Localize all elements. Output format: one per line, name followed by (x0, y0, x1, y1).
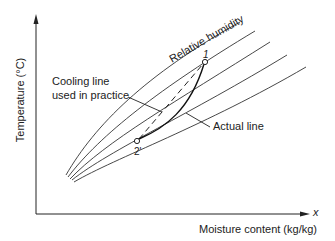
psychrometric-diagram: Relative humidity Temperature (°C) 1 2' … (0, 0, 335, 241)
cooling-line-leader (128, 97, 162, 112)
diagram-canvas: Relative humidity Temperature (°C) (0, 0, 335, 241)
cooling-line-label-line2: used in practice (52, 89, 129, 102)
rh-curve-4 (72, 55, 287, 180)
x-axis-arrowhead (300, 212, 310, 217)
point-1-label: 1 (203, 48, 209, 61)
x-axis-label: Moisture content (kg/kg) (199, 223, 317, 236)
x-axis-symbol: x (313, 206, 319, 219)
cooling-line-label-line1: Cooling line (52, 75, 109, 88)
rh-curve-3 (70, 42, 270, 179)
actual-line-label: Actual line (213, 120, 264, 133)
y-axis-label: Temperature (°C) (14, 58, 26, 142)
point-2prime-marker (134, 138, 139, 143)
axes (34, 14, 311, 217)
actual-line-leader (186, 113, 210, 127)
y-axis-arrowhead (34, 14, 39, 24)
point-2prime-label: 2' (134, 145, 141, 158)
